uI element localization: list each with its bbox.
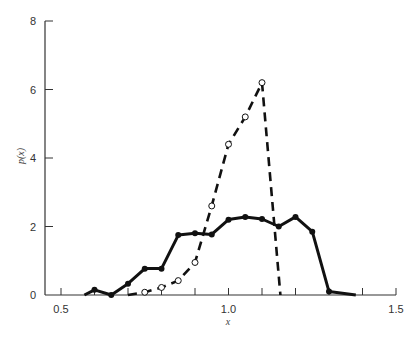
plot-area	[84, 80, 355, 298]
x-tick-label: 1.5	[388, 303, 403, 315]
filled-marker	[125, 281, 131, 287]
filled-marker	[175, 232, 181, 238]
open-marker	[209, 203, 215, 209]
axes: 024680.51.01.5	[30, 15, 404, 315]
open-marker	[175, 278, 181, 284]
filled-marker	[142, 266, 148, 272]
open-marker	[242, 114, 248, 120]
filled-marker	[226, 217, 232, 223]
open-marker	[259, 80, 265, 86]
x-tick-label: 1.0	[221, 303, 236, 315]
y-tick-label: 6	[30, 84, 36, 96]
y-tick-label: 0	[30, 289, 36, 301]
filled-marker	[259, 216, 265, 222]
x-tick-label: 0.5	[53, 303, 68, 315]
dashed-series-line	[128, 83, 280, 295]
filled-marker	[293, 214, 299, 220]
x-axis-label: x	[225, 316, 231, 327]
filled-marker	[309, 229, 315, 235]
y-axis-label: p(x)	[15, 147, 27, 165]
y-tick-label: 4	[30, 152, 36, 164]
filled-marker	[242, 214, 248, 220]
open-marker	[159, 284, 165, 290]
chart: 024680.51.01.5 p(x) x	[0, 0, 414, 339]
open-marker	[226, 141, 232, 147]
y-tick-label: 8	[30, 15, 36, 27]
open-marker	[142, 289, 148, 295]
filled-marker	[108, 292, 114, 298]
open-marker	[192, 259, 198, 265]
filled-marker	[92, 287, 98, 293]
filled-marker	[192, 230, 198, 236]
filled-marker	[209, 231, 215, 237]
filled-marker	[326, 289, 332, 295]
filled-marker	[159, 266, 165, 272]
y-tick-label: 2	[30, 221, 36, 233]
filled-marker	[276, 224, 282, 230]
